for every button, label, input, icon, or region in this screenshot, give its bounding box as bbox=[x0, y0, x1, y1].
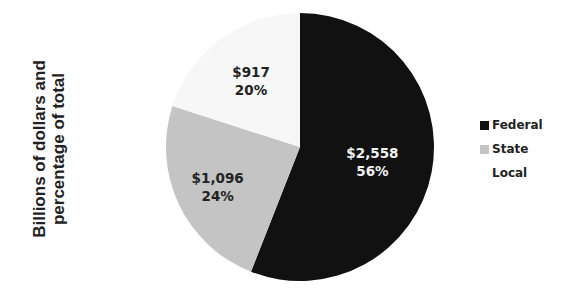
legend-item-local: Local bbox=[480, 161, 543, 185]
legend-label-local: Local bbox=[492, 166, 527, 180]
legend-item-federal: Federal bbox=[480, 113, 543, 137]
local-swatch-icon bbox=[480, 169, 489, 178]
federal-swatch-icon bbox=[480, 121, 489, 130]
legend-label-federal: Federal bbox=[492, 118, 543, 132]
legend: Federal State Local bbox=[480, 113, 543, 185]
legend-item-state: State bbox=[480, 137, 543, 161]
state-swatch-icon bbox=[480, 145, 489, 154]
legend-label-state: State bbox=[492, 142, 528, 156]
